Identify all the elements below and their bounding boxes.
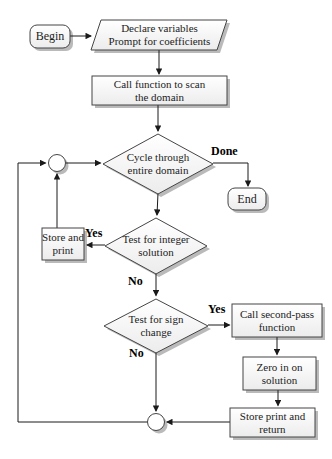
flow-shapes bbox=[30, 20, 322, 437]
store-return-process-shape bbox=[230, 408, 315, 437]
store-print-process-shape bbox=[42, 228, 84, 260]
edge-cycle-end-done bbox=[213, 163, 248, 186]
begin-terminal-shape bbox=[30, 25, 70, 48]
call-scan-process-shape bbox=[92, 76, 227, 105]
end-terminal-shape bbox=[228, 188, 266, 210]
declare-io-shape bbox=[91, 20, 227, 50]
test-integer-decision-shape bbox=[105, 218, 207, 274]
junction-bottom-circle bbox=[148, 414, 165, 431]
edge-junctionbottom-junctiontop-loop bbox=[18, 163, 148, 422]
flowchart-canvas: Begin Declare variables Prompt for coeff… bbox=[0, 0, 332, 459]
test-sign-decision-shape bbox=[104, 299, 208, 353]
junction-top-circle bbox=[49, 155, 66, 172]
call-second-process-shape bbox=[232, 304, 322, 337]
cycle-decision-shape bbox=[103, 134, 213, 194]
zero-in-process-shape bbox=[243, 357, 316, 390]
edge-cycle-testinteger bbox=[157, 193, 158, 215]
flowchart-drawing bbox=[0, 0, 332, 459]
